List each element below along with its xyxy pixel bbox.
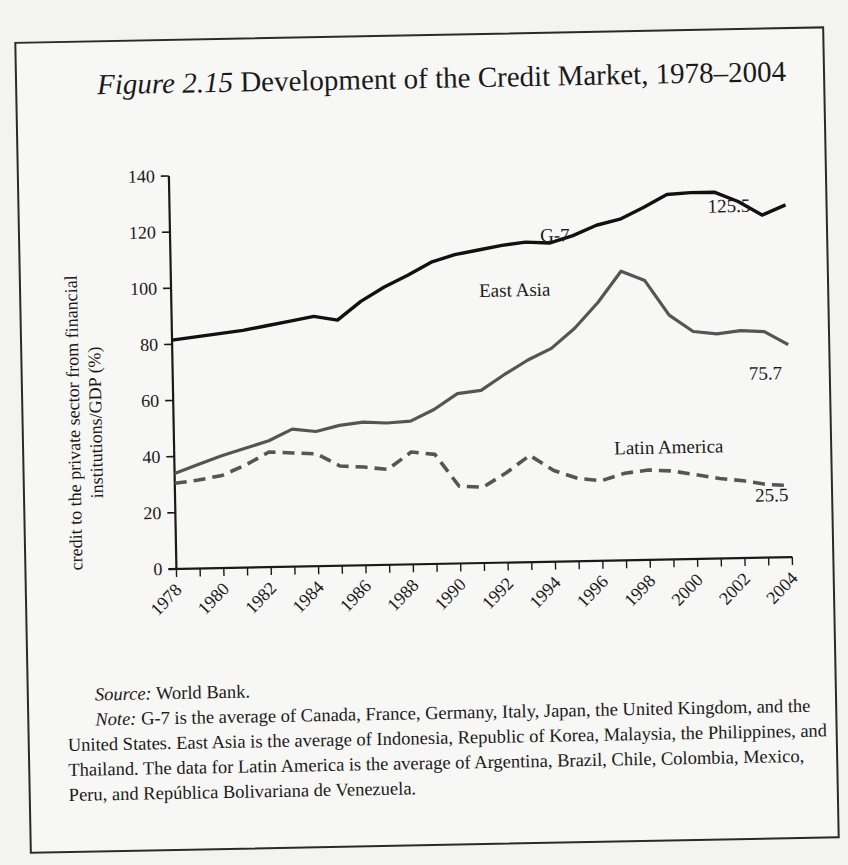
figure-notes: Source: World Bank. Note: G-7 is the ave… [67, 668, 829, 808]
label-g7: G-7 [540, 224, 570, 246]
x-tick-label: 1990 [431, 574, 470, 614]
x-tick-label: 1988 [383, 575, 422, 615]
source-label: Source: [95, 683, 152, 704]
y-tick-label: 100 [130, 278, 157, 299]
note-text: G-7 is the average of Canada, France, Ge… [68, 696, 828, 805]
page: Figure 2.15 Development of the Credit Ma… [0, 0, 848, 865]
y-tick-label: 60 [141, 391, 159, 411]
x-tick-label: 1998 [620, 571, 659, 611]
note-label: Note: [95, 709, 136, 730]
x-tick-label: 1984 [288, 577, 327, 617]
series-g-7 [169, 191, 788, 340]
y-axis-label-line2: institutions/GDP (%) [84, 346, 108, 498]
note-paragraph: Note: G-7 is the average of Canada, Fran… [67, 693, 829, 808]
source-text: World Bank. [156, 682, 250, 704]
figure-box: Figure 2.15 Development of the Credit Ma… [14, 26, 839, 853]
x-axis: 1978198019821984198619881990199219941996… [146, 557, 802, 620]
x-tick-label: 1986 [336, 576, 375, 616]
x-tick-label: 2004 [762, 568, 801, 608]
x-tick-label: 1980 [194, 579, 233, 619]
x-tick-label: 1978 [146, 580, 185, 620]
end-value-g7: 125.5 [707, 195, 750, 217]
y-axis: 020406080100120140 [128, 166, 177, 580]
x-tick-label: 1992 [478, 573, 517, 613]
y-axis-label: credit to the private sector from financ… [61, 275, 87, 570]
line-chart: 020406080100120140 197819801982198419861… [16, 28, 838, 683]
end-value-latin-america: 25.5 [755, 484, 789, 506]
y-tick-label: 120 [129, 222, 156, 243]
y-tick-label: 20 [143, 503, 161, 523]
x-tick-label: 1982 [241, 578, 280, 618]
x-tick-label: 2000 [667, 570, 706, 610]
y-tick-label: 140 [128, 166, 155, 187]
x-tick-label: 2002 [715, 569, 754, 609]
label-east-asia: East Asia [479, 279, 551, 301]
x-tick-label: 1994 [525, 572, 564, 612]
end-value-east-asia: 75.7 [749, 362, 783, 384]
y-tick-label: 0 [153, 559, 162, 579]
y-tick-label: 80 [140, 335, 158, 355]
y-tick-label: 40 [142, 447, 160, 467]
x-tick-label: 1996 [573, 571, 612, 611]
label-latin-america: Latin America [614, 435, 724, 458]
